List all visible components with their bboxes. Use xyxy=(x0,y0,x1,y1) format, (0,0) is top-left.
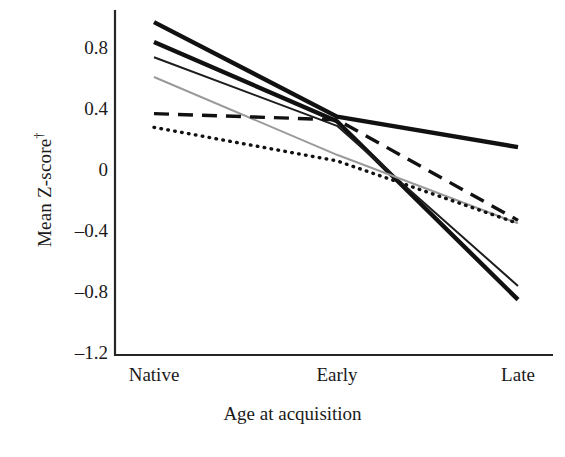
x-tick-label-early: Early xyxy=(316,365,357,384)
data-line-series-2 xyxy=(154,42,518,300)
data-lines xyxy=(154,22,518,300)
data-line-series-1 xyxy=(154,22,518,147)
data-line-series-4 xyxy=(154,77,518,223)
x-tick-label-late: Late xyxy=(501,365,535,384)
x-axis-title-text: Age at acquisition xyxy=(223,403,361,425)
data-line-series-5 xyxy=(154,114,518,221)
x-axis-title: Age at acquisition xyxy=(0,403,565,425)
data-line-series-3 xyxy=(154,57,518,286)
x-tick-label-native: Native xyxy=(129,365,180,384)
data-line-series-6 xyxy=(154,127,518,223)
x-axis-tick-labels: Native Early Late xyxy=(0,365,565,395)
chart-figure: Mean Z-score† 0.8 0.4 0 –0.4 –0.8 –1.2 N… xyxy=(0,0,565,457)
